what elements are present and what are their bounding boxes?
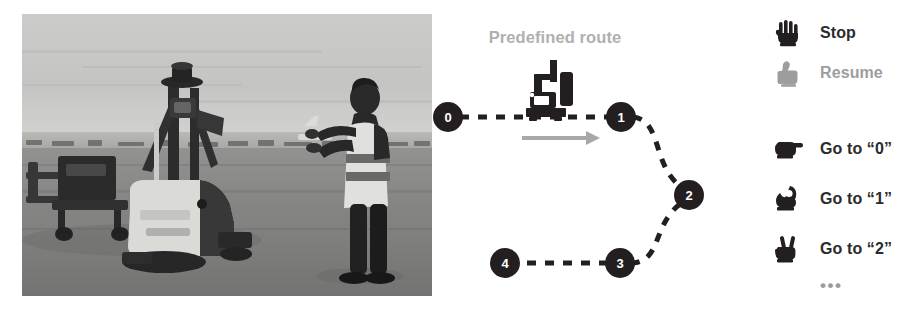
- legend-item-resume[interactable]: Resume: [772, 56, 883, 90]
- figure-root: Predefined route: [0, 0, 922, 310]
- route-graph: 0 1 2 3 4: [430, 0, 730, 310]
- legend-item-goto-2[interactable]: Go to “2”: [772, 232, 892, 266]
- route-node-3[interactable]: 3: [605, 248, 635, 278]
- route-node-4[interactable]: 4: [490, 248, 520, 278]
- route-node-0[interactable]: 0: [433, 102, 463, 132]
- legend-label-goto-1: Go to “1”: [820, 190, 892, 208]
- gesture-legend: Stop Resume Go: [772, 0, 922, 310]
- route-node-0-label: 0: [444, 110, 451, 125]
- thumbs-up-hand-icon: [772, 56, 806, 90]
- predefined-route-diagram: Predefined route: [430, 0, 730, 310]
- legend-more-ellipsis: •••: [820, 276, 842, 296]
- legend-item-goto-1[interactable]: Go to “1”: [772, 182, 892, 216]
- legend-label-resume: Resume: [820, 64, 883, 82]
- pointing-finger-hand-icon: [772, 132, 806, 166]
- field-photo-image: [22, 14, 432, 296]
- legend-label-stop: Stop: [820, 24, 856, 42]
- route-segment-2-3: [633, 204, 680, 263]
- route-node-3-label: 3: [616, 256, 623, 271]
- route-segment-1-2: [633, 117, 680, 186]
- field-photo: [22, 14, 432, 296]
- legend-label-goto-0: Go to “0”: [820, 140, 892, 158]
- legend-item-goto-0[interactable]: Go to “0”: [772, 132, 892, 166]
- route-node-2-label: 2: [685, 188, 692, 203]
- legend-label-goto-2: Go to “2”: [820, 240, 892, 258]
- agv-robot-icon: [526, 60, 573, 121]
- open-palm-hand-icon: [772, 16, 806, 50]
- route-node-1-label: 1: [617, 110, 624, 125]
- route-node-1[interactable]: 1: [606, 102, 636, 132]
- route-node-2[interactable]: 2: [674, 180, 704, 210]
- victory-two-fingers-hand-icon: [772, 232, 806, 266]
- ok-sign-hand-icon: [772, 182, 806, 216]
- route-node-4-label: 4: [501, 256, 509, 271]
- legend-item-stop[interactable]: Stop: [772, 16, 856, 50]
- right-arrow-icon: [522, 131, 600, 145]
